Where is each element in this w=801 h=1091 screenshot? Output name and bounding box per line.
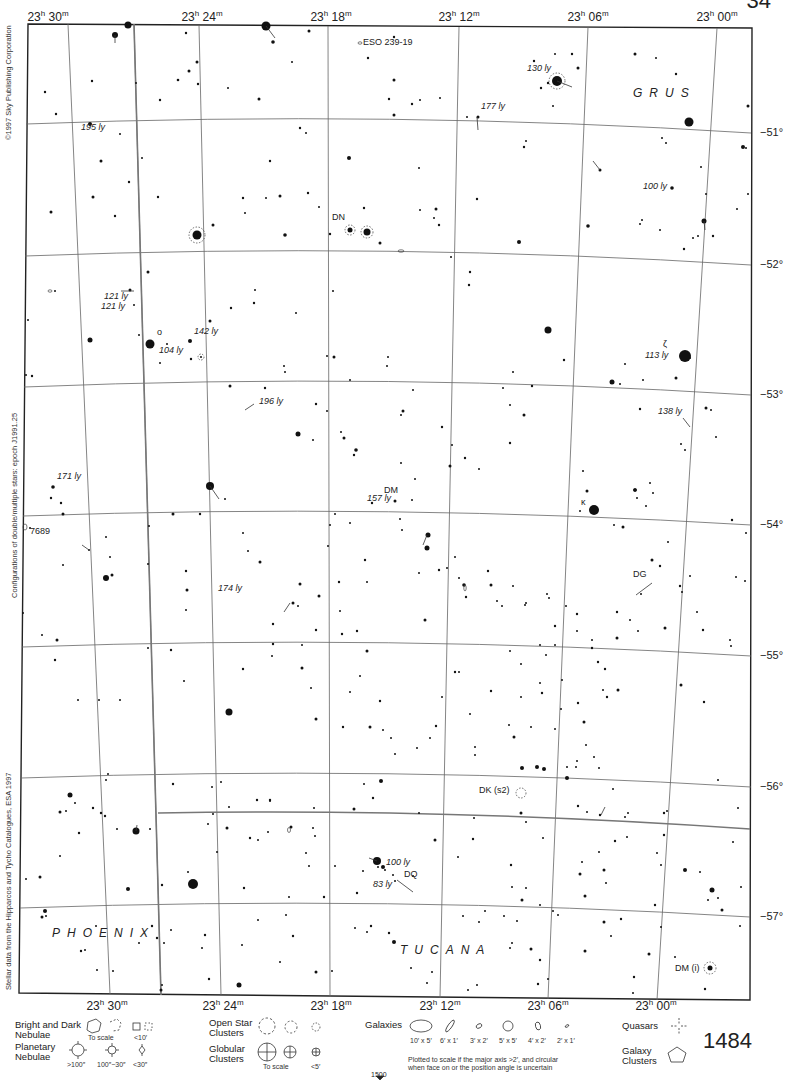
star xyxy=(185,609,187,611)
star xyxy=(634,53,637,56)
object-label: 174 ly xyxy=(218,583,242,593)
star xyxy=(170,649,172,651)
star xyxy=(472,838,474,840)
star xyxy=(379,700,381,702)
star xyxy=(201,947,203,949)
star xyxy=(708,966,713,971)
star xyxy=(43,909,47,913)
star xyxy=(186,589,189,592)
star xyxy=(426,982,428,984)
star xyxy=(478,468,480,470)
object-label: ESO 239-19 xyxy=(363,37,413,47)
object-label: 196 ly xyxy=(259,396,283,406)
legend-galaxy-size: 4′ x 2′ xyxy=(528,1036,546,1046)
open-cluster-large-icon xyxy=(259,1018,275,1034)
galaxy-4x2-icon xyxy=(535,1021,542,1030)
star xyxy=(200,356,202,358)
star xyxy=(141,157,143,159)
star xyxy=(705,407,708,410)
star xyxy=(279,195,282,198)
star xyxy=(161,884,163,886)
star xyxy=(508,724,510,726)
star xyxy=(249,837,251,839)
star xyxy=(230,307,232,309)
star xyxy=(717,779,719,781)
star xyxy=(478,921,480,923)
star xyxy=(633,976,635,978)
star xyxy=(419,99,421,101)
star xyxy=(744,580,746,582)
star xyxy=(692,237,694,239)
constellation-name: GRUS xyxy=(633,86,696,100)
star xyxy=(138,334,140,336)
star xyxy=(539,959,541,961)
star xyxy=(229,385,232,388)
star xyxy=(439,97,441,99)
star xyxy=(431,971,433,973)
dec-label: −52° xyxy=(760,258,783,270)
star xyxy=(490,690,492,692)
star xyxy=(539,644,541,646)
star xyxy=(645,505,647,507)
star xyxy=(584,950,587,953)
star xyxy=(359,675,361,677)
star xyxy=(661,137,663,139)
star xyxy=(449,465,452,468)
star xyxy=(674,956,676,958)
star xyxy=(247,550,249,552)
star xyxy=(571,53,573,55)
star xyxy=(547,82,549,84)
star xyxy=(617,689,620,692)
star xyxy=(349,379,351,381)
star xyxy=(211,786,213,788)
star xyxy=(339,610,341,612)
star xyxy=(579,510,581,512)
star xyxy=(632,992,634,994)
star xyxy=(100,160,103,163)
star xyxy=(639,408,641,410)
star xyxy=(441,696,443,698)
star xyxy=(474,746,476,748)
constellation-boundaries xyxy=(134,24,750,995)
star xyxy=(736,208,738,210)
planetary-nebula-small-icon xyxy=(139,1044,145,1056)
star xyxy=(348,228,353,233)
star xyxy=(242,668,244,670)
ra-label: 23h 12m xyxy=(419,998,460,1013)
star xyxy=(591,639,593,641)
star xyxy=(664,627,667,630)
star xyxy=(105,536,107,538)
star xyxy=(542,837,544,839)
star xyxy=(542,767,546,771)
legend-galaxy-size: 3′ x 2′ xyxy=(470,1036,488,1046)
globular-cluster-small-icon xyxy=(312,1048,320,1056)
star xyxy=(683,868,687,872)
star xyxy=(31,375,33,377)
star xyxy=(747,193,749,195)
star xyxy=(541,692,543,694)
star xyxy=(363,207,365,209)
star xyxy=(665,142,667,144)
star xyxy=(400,462,402,464)
star xyxy=(183,680,185,682)
star xyxy=(469,713,471,715)
star xyxy=(604,668,606,670)
star xyxy=(291,61,293,63)
star xyxy=(670,186,674,190)
star xyxy=(25,374,27,376)
star xyxy=(342,726,344,728)
star xyxy=(512,585,514,587)
star xyxy=(702,629,704,631)
object-label: o xyxy=(157,327,162,337)
star xyxy=(387,356,389,358)
star xyxy=(619,383,621,385)
star xyxy=(586,811,588,813)
star xyxy=(438,569,440,571)
star xyxy=(458,671,460,673)
star xyxy=(356,630,358,632)
legend-quasars-title: Quasars xyxy=(622,1021,658,1031)
star xyxy=(269,160,271,162)
legend-nebulae-small: <10′ xyxy=(134,1033,147,1043)
star xyxy=(412,389,414,391)
object-label: DQ xyxy=(404,869,418,879)
